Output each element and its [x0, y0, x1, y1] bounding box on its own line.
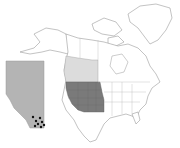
florida: [132, 112, 140, 124]
arctic-islands: [92, 18, 122, 36]
alberta-shape: [6, 61, 44, 128]
canada-range: [64, 56, 98, 82]
distribution-map: [0, 0, 180, 148]
alberta-inset: [6, 61, 45, 128]
alaska-outline: [20, 28, 70, 54]
greenland-outline: [128, 4, 172, 44]
